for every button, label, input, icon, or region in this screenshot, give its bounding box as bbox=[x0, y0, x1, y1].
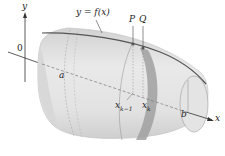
y-axis-arrow bbox=[23, 12, 27, 18]
surface-body bbox=[38, 28, 208, 138]
xk-1-label: xk−1 bbox=[115, 101, 133, 112]
xk-label: xk bbox=[142, 101, 151, 112]
x-axis-arrow bbox=[207, 117, 214, 121]
y-axis-label: y bbox=[22, 2, 27, 11]
curve-label: y = f(x) bbox=[76, 8, 110, 17]
right-end-ellipse bbox=[180, 76, 208, 132]
point-p bbox=[131, 42, 134, 45]
point-p-label: P bbox=[129, 15, 135, 24]
surface-of-revolution-diagram: y 0 y = f(x) P Q a xk−1 xk b x bbox=[0, 0, 225, 156]
diagram-graphic bbox=[0, 0, 225, 156]
b-label: b bbox=[181, 110, 187, 119]
origin-label: 0 bbox=[17, 44, 23, 53]
a-label: a bbox=[59, 71, 64, 80]
x-axis-label: x bbox=[215, 114, 220, 123]
point-q-label: Q bbox=[139, 15, 146, 24]
point-q bbox=[141, 46, 144, 49]
